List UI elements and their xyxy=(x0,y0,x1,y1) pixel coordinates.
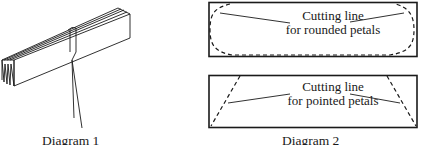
pointed-cutting-line-label: Cutting line for pointed petals xyxy=(260,80,406,108)
label-line-1: Cutting line xyxy=(260,80,406,94)
diagram-2-caption: Diagram 2 xyxy=(282,133,339,145)
folded-paper-bundle-illustration xyxy=(2,8,130,128)
rounded-cutting-line-label: Cutting line for rounded petals xyxy=(260,9,406,37)
label-line-1: Cutting line xyxy=(260,9,406,23)
label-line-2: for rounded petals xyxy=(260,23,406,37)
diagram-1-caption: Diagram 1 xyxy=(42,133,99,145)
label-line-2: for pointed petals xyxy=(260,94,406,108)
